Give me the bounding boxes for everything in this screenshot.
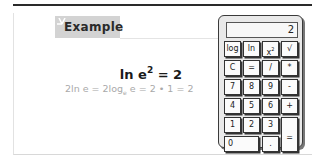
key-0[interactable]: 0 xyxy=(224,136,259,152)
key-6[interactable]: 6 xyxy=(262,98,279,114)
formula-prefix: ln e xyxy=(120,67,147,82)
derivation-part1: 2ln e = 2log xyxy=(65,83,123,94)
key-divide[interactable]: / xyxy=(262,60,279,76)
example-header-label: Example xyxy=(64,20,123,34)
calculator-display: 2 xyxy=(226,22,298,38)
example-header-tab: Example xyxy=(55,16,120,38)
key-multiply[interactable]: * xyxy=(281,60,298,76)
header-rule xyxy=(120,38,220,39)
key-7[interactable]: 7 xyxy=(224,79,241,95)
key-log[interactable]: log xyxy=(224,41,241,57)
derivation-part2: e = 2 • 1 = 2 xyxy=(127,83,194,94)
key-4[interactable]: 4 xyxy=(224,98,241,114)
key-plus[interactable]: + xyxy=(281,98,298,114)
top-divider xyxy=(13,4,312,6)
key-8[interactable]: 8 xyxy=(243,79,260,95)
formula-exponent: 2 xyxy=(147,65,153,75)
calculator: 2 log ln x2 √ C = / * 7 8 9 - 4 5 6 + 1 … xyxy=(218,15,303,148)
main-formula: ln e2 = 2 xyxy=(105,66,197,82)
key-minus[interactable]: - xyxy=(281,79,298,95)
key-equals[interactable]: = xyxy=(281,117,298,152)
key-ln[interactable]: ln xyxy=(243,41,260,57)
key-3[interactable]: 3 xyxy=(262,117,279,133)
key-x-squared-exponent: 2 xyxy=(271,46,274,52)
derivation-line: 2ln e = 2loge e = 2 • 1 = 2 xyxy=(65,83,193,96)
key-equals-top[interactable]: = xyxy=(243,60,260,76)
key-5[interactable]: 5 xyxy=(243,98,260,114)
key-decimal[interactable]: . xyxy=(262,136,279,152)
key-sqrt[interactable]: √ xyxy=(281,41,298,57)
key-2[interactable]: 2 xyxy=(243,117,260,133)
key-clear[interactable]: C xyxy=(224,60,241,76)
key-x-squared[interactable]: x2 xyxy=(262,41,279,57)
formula-suffix: = 2 xyxy=(153,67,182,82)
key-9[interactable]: 9 xyxy=(262,79,279,95)
key-1[interactable]: 1 xyxy=(224,117,241,133)
